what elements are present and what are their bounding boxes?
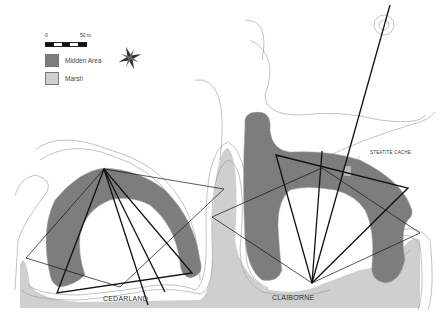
steatite-cache-label: STEATITE CACHE xyxy=(370,150,411,155)
scale-end: 50 m xyxy=(80,32,91,38)
claiborne-midden xyxy=(244,112,413,283)
scale-bar xyxy=(45,42,87,47)
midden-swatch xyxy=(45,54,59,67)
legend-label: Midden Area xyxy=(65,57,102,64)
legend-item-marsh: Marsh xyxy=(45,72,102,85)
scale-start: 0 xyxy=(45,32,48,38)
site-label-cedarland: CEDARLAND xyxy=(103,295,148,302)
site-label-claiborne: CLAIBORNE xyxy=(272,294,314,301)
map-legend: 0 50 m Midden Area Marsh xyxy=(45,32,102,85)
cedarland-midden xyxy=(46,168,201,287)
legend-label: Marsh xyxy=(65,75,83,82)
marsh-swatch xyxy=(45,72,59,85)
compass-rose-icon xyxy=(115,43,146,74)
scale-labels: 0 50 m xyxy=(45,32,85,41)
legend-item-midden: Midden Area xyxy=(45,54,102,67)
